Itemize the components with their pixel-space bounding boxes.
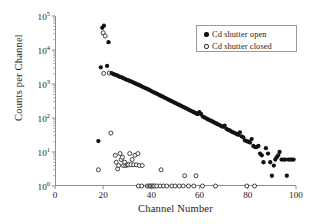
x-tick-label: 20 xyxy=(91,190,115,200)
x-tick-label: 100 xyxy=(284,190,308,200)
figure-container: 105104103102101100 020406080100 Counts p… xyxy=(0,0,315,224)
legend-item-open: Cd shutter open xyxy=(201,29,296,40)
legend-label-open: Cd shutter open xyxy=(212,30,267,39)
y-axis-title: Counts per Channel xyxy=(13,0,24,158)
x-tick-label: 80 xyxy=(236,190,260,200)
legend-box: Cd shutter open Cd shutter closed xyxy=(196,25,297,52)
filled-circle-icon xyxy=(201,32,212,36)
x-tick-label: 60 xyxy=(188,190,212,200)
x-tick-label: 0 xyxy=(43,190,67,200)
x-tick-label: 40 xyxy=(139,190,163,200)
x-axis-title: Channel Number xyxy=(55,203,296,214)
open-circle-icon xyxy=(201,44,212,48)
legend-label-closed: Cd shutter closed xyxy=(212,42,272,51)
legend-item-closed: Cd shutter closed xyxy=(201,41,296,52)
